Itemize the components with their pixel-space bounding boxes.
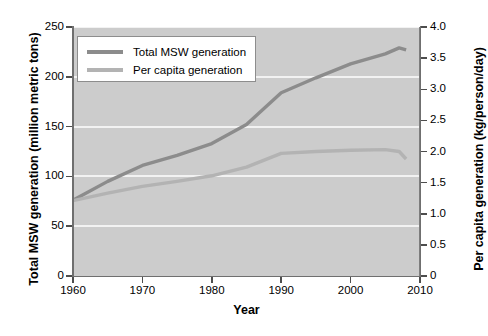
right-tick-4 [421,26,427,28]
x-tick-1970 [142,277,144,283]
right-ticklabel-2-5: 2.5 [430,114,446,126]
right-tick-0 [421,275,427,277]
left-ticklabel-50: 50 [51,220,64,232]
legend-item-percapita[interactable]: Per capita generation [78,61,255,79]
right-tick-1-5 [421,182,427,184]
right-axis-title: Per capita generation (kg/person/day) [472,29,486,289]
right-tick-0-5 [421,244,427,246]
right-ticklabel-2: 2.0 [430,146,446,158]
right-tick-3-5 [421,57,427,59]
legend-label-total: Total MSW generation [133,46,246,58]
right-tick-3 [421,89,427,91]
x-axis-title: Year [73,303,420,317]
left-tick-100 [66,176,72,178]
left-ticklabel-0: 0 [58,270,64,282]
left-tick-250 [66,26,72,28]
x-ticklabel-1990: 1990 [251,285,311,297]
right-ticklabel-0: 0 [430,270,436,282]
left-tick-0 [66,275,72,277]
left-tick-150 [66,126,72,128]
right-tick-1 [421,213,427,215]
left-axis-title: Total MSW generation (million metric ton… [27,29,41,289]
right-tick-2-5 [421,120,427,122]
left-ticklabel-200: 200 [45,71,64,83]
legend-item-total[interactable]: Total MSW generation [78,43,255,61]
x-ticklabel-1970: 1970 [112,285,172,297]
bottom-axis-spine [72,276,421,278]
x-ticklabel-2010: 2010 [390,285,450,297]
left-tick-50 [66,225,72,227]
left-ticklabel-250: 250 [45,21,64,33]
right-tick-2 [421,151,427,153]
legend-swatch-total [87,50,123,54]
right-ticklabel-1-5: 1.5 [430,177,446,189]
x-tick-1980 [211,277,213,283]
legend-label-percapita: Per capita generation [133,64,242,76]
left-ticklabel-100: 100 [45,170,64,182]
x-tick-1990 [280,277,282,283]
x-ticklabel-2000: 2000 [321,285,381,297]
right-ticklabel-4: 4.0 [430,21,446,33]
legend: Total MSW generation Per capita generati… [77,36,256,82]
x-tick-1960 [72,277,74,283]
x-ticklabel-1960: 1960 [43,285,103,297]
left-axis-spine [72,26,74,277]
x-tick-2010 [419,277,421,283]
x-ticklabel-1980: 1980 [182,285,242,297]
left-tick-200 [66,76,72,78]
chart-figure: 050100150200250 00.51.01.52.02.53.03.54.… [0,0,488,336]
right-ticklabel-3-5: 3.5 [430,52,446,64]
left-ticklabel-150: 150 [45,121,64,133]
right-ticklabel-3: 3.0 [430,83,446,95]
right-ticklabel-1: 1.0 [430,208,446,220]
right-ticklabel-0-5: 0.5 [430,239,446,251]
legend-swatch-percapita [87,68,123,72]
x-tick-2000 [350,277,352,283]
